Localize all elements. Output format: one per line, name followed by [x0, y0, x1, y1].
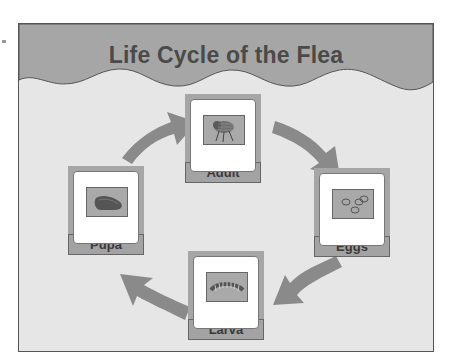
flea-icon — [203, 115, 245, 145]
stage-card-eggs: Eggs — [314, 168, 390, 259]
arrow-eggs-to-larva — [273, 256, 342, 305]
pupa-icon — [86, 187, 128, 217]
larva-icon — [206, 272, 248, 302]
diagram-frame: Life Cycle of the Flea — [18, 23, 434, 352]
eggs-icon — [332, 189, 374, 219]
stage-card-pupa: Pupa — [68, 166, 144, 258]
stage-card-adult: Adult — [185, 94, 261, 191]
stage-card-larva: Larva — [188, 251, 264, 341]
arrow-larva-to-pupa — [120, 274, 190, 320]
margin-mark — [2, 40, 6, 43]
